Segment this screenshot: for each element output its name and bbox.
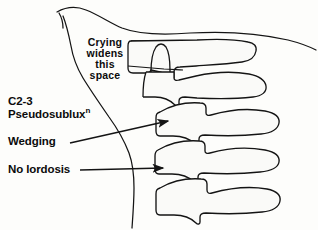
annotation-wedging: Wedging: [8, 136, 56, 148]
submental-notch: [59, 13, 63, 28]
annotation-pseudosublux: Pseudosubluxn: [8, 109, 90, 121]
c4-vertebral-body-group: [155, 141, 279, 183]
c3-superior-shape: [143, 72, 266, 106]
no-lordosis-leader-arrow: [80, 168, 163, 170]
pseudosublux-word: Pseudosublux: [8, 108, 85, 120]
c5-vertebral-body-group: [156, 179, 280, 224]
c3-vertebral-body: [156, 103, 279, 145]
cervical-spine-figure: Crying widens this space C2-3 Pseudosubl…: [0, 0, 318, 230]
c5-vertebral-body: [156, 179, 280, 224]
annotation-c2-3: C2-3: [8, 96, 33, 108]
c3-vertebral-body-group: [156, 103, 279, 145]
annotation-crying-widens-this-space: Crying widens this space: [79, 37, 131, 82]
c4-vertebral-body: [155, 141, 279, 183]
c2-3-interspace-group: [143, 72, 266, 106]
annotation-no-lordosis: No lordosis: [8, 164, 70, 176]
pseudosublux-superscript: n: [85, 106, 90, 115]
crying-line-4: space: [79, 70, 131, 81]
wedging-leader-arrow: [70, 121, 168, 143]
leader-arrow-group: [70, 121, 168, 170]
